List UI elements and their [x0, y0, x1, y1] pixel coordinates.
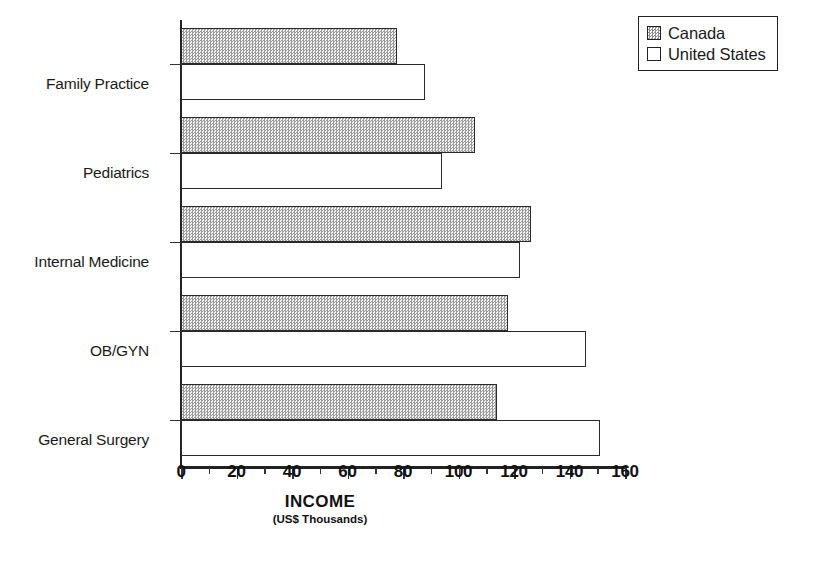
y-tick-pediatrics — [170, 153, 181, 154]
united-states-swatch-icon — [647, 47, 661, 61]
y-tick-internal-medicine — [170, 242, 181, 243]
bar-us-internal-medicine — [181, 242, 520, 278]
legend-label-canada: Canada — [668, 24, 725, 42]
x-ticklabel-40: 40 — [283, 462, 301, 482]
legend-entry-canada: Canada — [647, 22, 766, 43]
y-tick-family-practice — [170, 64, 181, 65]
y-axis-category-labels: Family Practice Pediatrics Internal Medi… — [0, 20, 166, 466]
bar-us-ob-gyn — [181, 331, 586, 367]
x-ticklabel-100: 100 — [445, 462, 472, 482]
y-label-general-surgery: General Surgery — [38, 431, 149, 449]
bar-canada-family-practice — [181, 28, 397, 64]
y-label-family-practice: Family Practice — [46, 75, 149, 93]
bar-canada-internal-medicine — [181, 206, 531, 242]
x-axis-title: INCOME — [0, 492, 640, 512]
x-ticklabel-120: 120 — [500, 462, 527, 482]
y-tick-general-surgery — [170, 420, 181, 421]
bar-canada-ob-gyn — [181, 295, 508, 331]
x-ticklabel-60: 60 — [338, 462, 356, 482]
bar-canada-general-surgery — [181, 384, 497, 420]
bar-us-pediatrics — [181, 153, 442, 189]
chart-legend: Canada United States — [638, 16, 778, 71]
x-ticklabel-160: 160 — [611, 462, 638, 482]
x-ticklabel-140: 140 — [556, 462, 583, 482]
bar-chart: Canada United States Family Practice Ped… — [0, 0, 818, 561]
y-label-internal-medicine: Internal Medicine — [34, 253, 149, 271]
x-axis-subtitle: (US$ Thousands) — [0, 513, 640, 525]
bar-canada-pediatrics — [181, 117, 475, 153]
bar-us-family-practice — [181, 64, 425, 100]
bar-us-general-surgery — [181, 420, 600, 456]
x-ticklabel-20: 20 — [227, 462, 245, 482]
x-ticklabel-0: 0 — [176, 462, 185, 482]
x-axis-tick-labels: 0 20 40 60 80 100 120 140 160 — [181, 462, 625, 488]
y-label-pediatrics: Pediatrics — [83, 164, 149, 182]
y-tick-ob-gyn — [170, 331, 181, 332]
canada-swatch-icon — [647, 26, 661, 40]
x-ticklabel-80: 80 — [394, 462, 412, 482]
plot-area — [181, 20, 625, 466]
legend-label-united-states: United States — [668, 45, 766, 63]
y-label-ob-gyn: OB/GYN — [90, 342, 149, 360]
legend-entry-united-states: United States — [647, 43, 766, 64]
